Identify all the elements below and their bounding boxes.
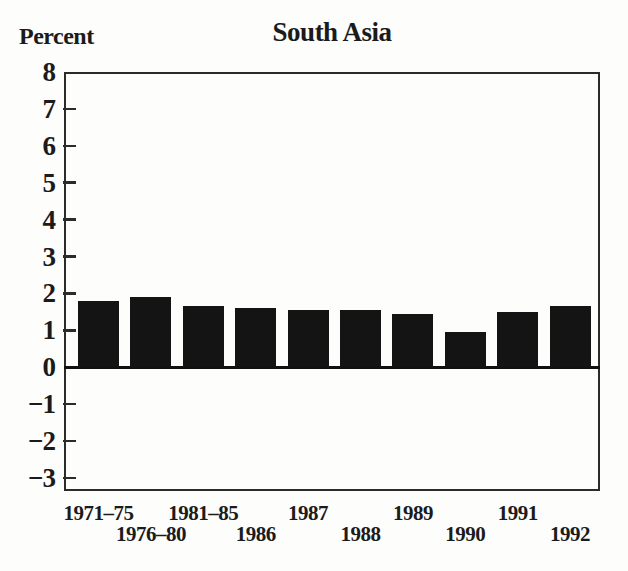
bar <box>550 306 591 367</box>
y-tick-label: 7 <box>0 93 55 125</box>
bar <box>288 310 329 367</box>
y-axis-tick <box>63 403 76 406</box>
y-axis-tick <box>63 145 76 148</box>
y-axis-tick <box>63 292 76 295</box>
y-tick-label: 6 <box>0 130 55 162</box>
x-tick-label: 1992 <box>520 522 620 547</box>
bar <box>183 306 224 367</box>
y-axis-tick <box>63 218 76 221</box>
chart-title: South Asia <box>164 17 500 48</box>
bar <box>392 314 433 368</box>
y-tick-label: 8 <box>0 56 55 88</box>
y-tick-label: −2 <box>0 425 55 457</box>
y-tick-label: 0 <box>0 351 55 383</box>
y-axis-tick <box>63 181 76 184</box>
y-tick-label: 2 <box>0 277 55 309</box>
bar <box>130 297 171 367</box>
y-axis-tick <box>63 329 76 332</box>
y-tick-label: −1 <box>0 388 55 420</box>
plot-area <box>64 72 600 491</box>
y-axis-tick <box>63 440 76 443</box>
y-tick-label: 5 <box>0 167 55 199</box>
south-asia-bar-chart: Percent South Asia 876543210−1−2−31971–7… <box>0 0 628 571</box>
y-axis-tick <box>63 108 76 111</box>
y-axis-tick <box>63 255 76 258</box>
bar <box>235 308 276 367</box>
y-tick-label: 3 <box>0 241 55 273</box>
y-tick-label: 4 <box>0 204 55 236</box>
bar <box>78 301 119 367</box>
y-tick-label: −3 <box>0 462 55 494</box>
y-axis-unit-label: Percent <box>19 23 94 50</box>
y-tick-label: 1 <box>0 314 55 346</box>
bar <box>497 312 538 367</box>
y-axis-tick <box>63 477 76 480</box>
bar <box>445 332 486 367</box>
bar <box>340 310 381 367</box>
